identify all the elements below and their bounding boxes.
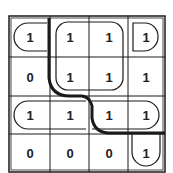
cell-r2c4: 1 [127,58,165,96]
cell-r1c1: 1 [11,18,49,56]
cell-r2c2: 1 [51,58,89,96]
cell-r4c1: 0 [11,134,49,172]
cell-r1c2: 1 [51,18,89,56]
cell-r3c3: 1 [90,96,128,134]
cell-r3c4: 1 [127,96,165,134]
cell-r1c3: 1 [90,18,128,56]
cell-r3c2: 1 [51,96,89,134]
cell-r4c2: 0 [51,134,89,172]
cell-r4c3: 0 [90,134,128,172]
cell-r2c1: 0 [11,58,49,96]
cell-r2c3: 1 [90,58,128,96]
cell-r3c1: 1 [11,96,49,134]
cell-r1c4: 1 [127,18,165,56]
cell-r4c4: 1 [127,134,165,172]
